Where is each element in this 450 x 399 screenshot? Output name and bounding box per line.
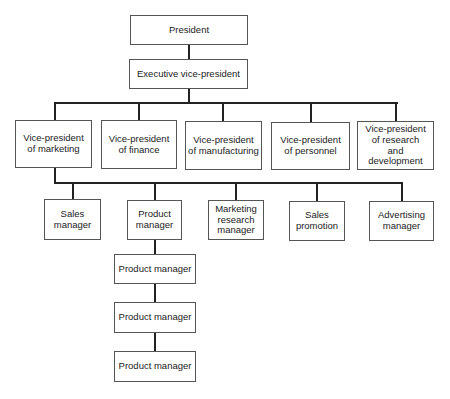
connector	[54, 182, 403, 184]
connector	[401, 182, 403, 201]
connector	[316, 182, 318, 201]
product-manager-box: Product manager	[127, 200, 182, 240]
connector	[222, 102, 224, 121]
product-manager-sub-box: Product manager	[114, 254, 196, 284]
connector	[154, 333, 156, 351]
sales-promotion-box: Sales promotion	[289, 201, 345, 241]
advertising-manager-box: Advertising manager	[369, 201, 434, 241]
marketing-research-manager-box: Marketing research manager	[208, 200, 264, 240]
connector	[154, 182, 156, 200]
vp-personnel-box: Vice-president of personnel	[271, 122, 350, 170]
product-manager-sub-box: Product manager	[114, 302, 196, 333]
product-manager-sub-box: Product manager	[114, 351, 196, 382]
president-box: President	[130, 15, 248, 45]
vp-manufacturing-box: Vice-president of manufacturing	[185, 121, 262, 170]
connector	[72, 182, 74, 199]
executive-vp-box: Executive vice-president	[129, 59, 248, 89]
connector	[395, 102, 397, 121]
connector	[188, 89, 190, 103]
connector	[188, 45, 190, 59]
sales-manager-box: Sales manager	[44, 199, 101, 240]
connector	[54, 102, 398, 104]
connector	[154, 284, 156, 302]
connector	[235, 182, 237, 200]
connector	[138, 102, 140, 120]
connector	[310, 102, 312, 122]
vp-marketing-box: Vice-president of marketing	[15, 120, 92, 168]
vp-finance-box: Vice-president of finance	[101, 120, 177, 169]
connector	[54, 102, 56, 120]
vp-research-development-box: Vice-president of research and developme…	[357, 121, 434, 170]
connector	[154, 240, 156, 254]
